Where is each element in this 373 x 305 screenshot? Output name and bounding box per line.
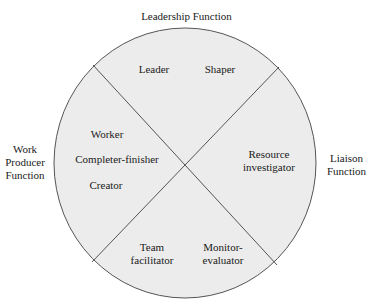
work-producer-line-2: Producer — [0, 156, 50, 169]
role-creator: Creator — [90, 179, 123, 192]
role-creator-text: Creator — [90, 179, 123, 191]
work-producer-line-3: Function — [0, 169, 50, 182]
liaison-line-2: Function — [320, 165, 373, 178]
role-monitor-evaluator: Monitor- evaluator — [203, 241, 244, 267]
role-resource-investigator-line-1: Resource — [243, 148, 295, 161]
role-worker: Worker — [91, 128, 124, 141]
leadership-function-text: Leadership Function — [141, 10, 232, 22]
role-monitor-evaluator-line-2: evaluator — [203, 254, 244, 267]
role-shaper: Shaper — [205, 63, 236, 76]
role-completer-finisher-text: Completer-finisher — [75, 153, 158, 165]
role-worker-text: Worker — [91, 128, 124, 140]
leadership-function-label: Leadership Function — [0, 10, 373, 23]
role-resource-investigator: Resource investigator — [243, 148, 295, 174]
role-team-facilitator-line-2: facilitator — [131, 254, 174, 267]
team-roles-diagram — [0, 0, 373, 305]
work-producer-line-1: Work — [0, 143, 50, 156]
liaison-function-label: Liaison Function — [320, 152, 373, 178]
role-completer-finisher: Completer-finisher — [75, 153, 158, 166]
role-team-facilitator: Team facilitator — [131, 241, 174, 267]
role-monitor-evaluator-line-1: Monitor- — [203, 241, 244, 254]
role-resource-investigator-line-2: investigator — [243, 161, 295, 174]
role-team-facilitator-line-1: Team — [131, 241, 174, 254]
role-leader: Leader — [139, 63, 170, 76]
work-producer-function-label: Work Producer Function — [0, 143, 50, 182]
role-shaper-text: Shaper — [205, 63, 236, 75]
role-leader-text: Leader — [139, 63, 170, 75]
liaison-line-1: Liaison — [320, 152, 373, 165]
